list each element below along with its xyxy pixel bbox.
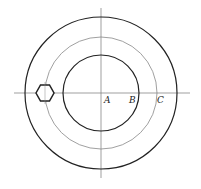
concentric-circles-diagram: A B C xyxy=(0,0,201,189)
label-a: A xyxy=(103,95,111,105)
label-b: B xyxy=(128,95,136,105)
label-c: C xyxy=(157,95,164,105)
